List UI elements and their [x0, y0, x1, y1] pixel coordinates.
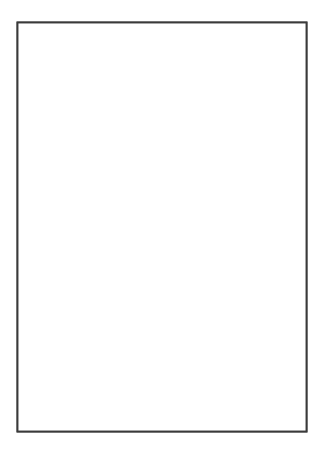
diagram-canvas [0, 0, 323, 450]
figure-root [0, 0, 323, 450]
figure-frame-overlay [18, 23, 307, 432]
